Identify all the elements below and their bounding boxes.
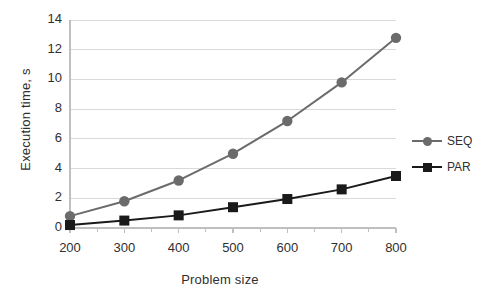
data-point-marker-seq [119,196,129,206]
data-point-marker-par [337,184,347,194]
data-point-marker-par [282,194,292,204]
data-point-marker-par [119,216,129,226]
legend-key-par [412,160,442,174]
series-line-par [70,176,396,225]
legend-label-par: PAR [447,160,471,174]
data-point-marker-par [174,210,184,220]
chart-legend: SEQ PAR [412,128,472,180]
data-point-marker-seq [391,33,401,43]
data-point-marker-par [228,202,238,212]
data-point-marker-par [391,171,401,181]
legend-item-seq: SEQ [412,128,472,154]
data-point-marker-seq [336,77,346,87]
circle-marker-icon [423,137,432,146]
square-marker-icon [423,163,432,172]
legend-label-seq: SEQ [447,134,472,148]
series-line-seq [70,38,396,216]
chart-container: Execution time, s Problem size 14 12 10 … [0,0,490,301]
data-point-marker-seq [173,175,183,185]
data-point-marker-par [65,220,75,230]
legend-key-seq [412,134,442,148]
data-point-marker-seq [282,116,292,126]
data-point-marker-seq [65,211,75,221]
legend-item-par: PAR [412,154,472,180]
data-point-marker-seq [228,149,238,159]
